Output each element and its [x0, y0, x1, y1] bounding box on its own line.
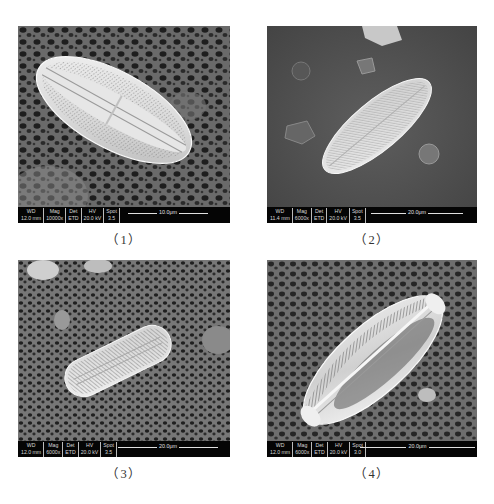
det-cell: DetETD: [312, 442, 327, 457]
mag-cell: Mag6000x: [293, 208, 312, 223]
spot-cell: Spot3.5: [104, 208, 120, 223]
figure-panel-1: WD12.0 mm Mag10000x DetETD HV20.0 kV Spo…: [18, 26, 230, 256]
wd-cell: WD12.0 mm: [19, 208, 44, 223]
diatom-image: [18, 260, 230, 457]
figure-caption: （2）: [267, 229, 477, 248]
figure-panel-2: WD11.4 mm Mag6000x DetETD HV20.0 kV Spot…: [267, 26, 477, 256]
wd-cell: WD12.0 mm: [268, 442, 293, 457]
figure-panel-4: WD12.0 mm Mag6000x DetETD HV20.0 kV Spot…: [267, 260, 477, 490]
figure-caption: （1）: [18, 229, 230, 248]
figure-caption: （4）: [267, 463, 477, 482]
hv-cell: HV20.0 kV: [79, 442, 102, 457]
figure-caption: （3）: [18, 463, 230, 482]
diatom-image: [18, 26, 230, 223]
det-cell: DetETD: [66, 208, 81, 223]
sem-info-bar: WD12.0 mm Mag6000x DetETD HV20.0 kV Spot…: [18, 441, 230, 457]
mag-cell: Mag6000x: [293, 442, 312, 457]
sem-micrograph-2: WD11.4 mm Mag6000x DetETD HV20.0 kV Spot…: [267, 26, 477, 223]
figure-panel-3: WD12.0 mm Mag6000x DetETD HV20.0 kV Spot…: [18, 260, 230, 490]
sem-micrograph-4: WD12.0 mm Mag6000x DetETD HV20.0 kV Spot…: [267, 260, 477, 457]
sem-info-bar: WD12.0 mm Mag10000x DetETD HV20.0 kV Spo…: [18, 207, 230, 223]
diatom-image: [267, 26, 477, 223]
mag-cell: Mag10000x: [44, 208, 66, 223]
scale-bar: 20.0μm: [118, 444, 218, 450]
scale-bar: 10.0μm: [128, 210, 208, 216]
diatom-image: [267, 260, 477, 457]
hv-cell: HV20.0 kV: [327, 208, 350, 223]
sem-micrograph-1: WD12.0 mm Mag10000x DetETD HV20.0 kV Spo…: [18, 26, 230, 223]
scale-bar: 20.0μm: [371, 210, 463, 216]
sem-micrograph-3: WD12.0 mm Mag6000x DetETD HV20.0 kV Spot…: [18, 260, 230, 457]
wd-cell: WD11.4 mm: [268, 208, 293, 223]
hv-cell: HV20.0 kV: [328, 442, 351, 457]
sem-info-bar: WD12.0 mm Mag6000x DetETD HV20.0 kV Spot…: [267, 441, 477, 457]
hv-cell: HV20.0 kV: [82, 208, 105, 223]
wd-cell: WD12.0 mm: [19, 442, 44, 457]
mag-cell: Mag6000x: [44, 442, 63, 457]
det-cell: DetETD: [312, 208, 327, 223]
sem-info-bar: WD11.4 mm Mag6000x DetETD HV20.0 kV Spot…: [267, 207, 477, 223]
spot-cell: Spot3.5: [101, 442, 117, 457]
spot-cell: Spot3.5: [350, 208, 366, 223]
scale-bar: 20.0μm: [360, 444, 475, 450]
det-cell: DetETD: [63, 442, 78, 457]
